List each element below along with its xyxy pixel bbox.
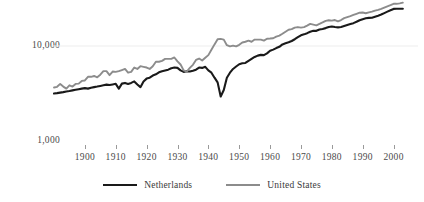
legend-swatch-netherlands (103, 184, 137, 186)
x-axis-tick-1990 (363, 145, 364, 149)
chart-legend: Netherlands United States (0, 180, 424, 190)
x-axis-tick-1980 (332, 145, 333, 149)
series-lines (54, 3, 403, 97)
x-axis-tick-1900 (85, 145, 86, 149)
x-axis-tick-1950 (239, 145, 240, 149)
legend-swatch-united-states (226, 184, 260, 186)
x-axis-tick-1930 (178, 145, 179, 149)
plot-area (0, 0, 424, 202)
x-axis-label-2000: 2000 (374, 152, 414, 162)
x-axis-tick-1910 (116, 145, 117, 149)
x-axis-tick-1940 (208, 145, 209, 149)
x-axis-tick-1920 (147, 145, 148, 149)
series-line-netherlands (54, 9, 403, 97)
legend-item-united-states[interactable]: United States (226, 180, 321, 190)
x-axis-tick-1970 (301, 145, 302, 149)
legend-item-netherlands[interactable]: Netherlands (103, 180, 192, 190)
x-axis-tick-1960 (270, 145, 271, 149)
chart-figure: 10,000 1,000 190019101920193019401950196… (0, 0, 424, 202)
legend-label-netherlands: Netherlands (144, 180, 192, 190)
legend-label-united-states: United States (267, 180, 321, 190)
x-axis-tick-2000 (394, 145, 395, 149)
